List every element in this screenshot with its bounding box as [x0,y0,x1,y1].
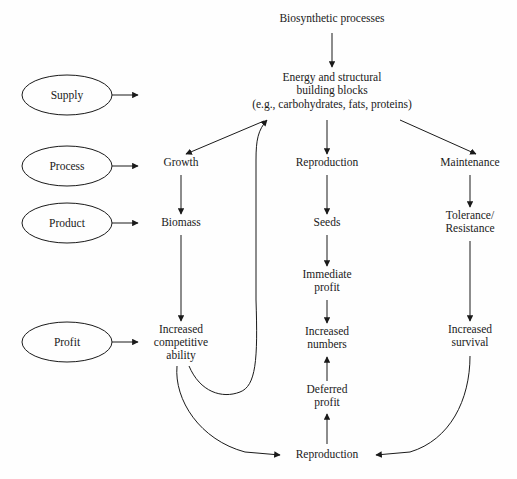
node-immediate-profit-line-1: Immediate [302,268,351,280]
node-energy-building-blocks: Energy and structural building blocks (e… [252,71,412,111]
edge-energy-to-growth [186,121,264,154]
node-deferred-profit-line-2: profit [314,396,340,409]
supply-label: Supply [51,89,84,102]
edge-competitive-ability-to-reproduction-bottom [177,366,280,455]
role-ellipse-supply[interactable]: Supply [22,75,138,115]
role-ellipse-profit[interactable]: Profit [22,322,138,362]
role-ellipse-product[interactable]: Product [22,203,138,243]
flow-diagram-svg: Supply Process Product Profit [0,0,517,479]
node-increased-survival-line-1: Increased [448,323,492,335]
node-increased-numbers: Increased numbers [305,325,349,350]
node-maintenance: Maintenance [440,156,499,168]
node-deferred-profit: Deferred profit [307,383,348,409]
node-increased-numbers-line-2: numbers [307,338,347,350]
node-energy-line-2: building blocks [296,84,368,97]
node-reproduction-top: Reproduction [296,156,359,169]
flow-diagram-canvas: Supply Process Product Profit [0,0,517,479]
node-increased-survival-line-2: survival [451,336,488,348]
node-increased-survival: Increased survival [448,323,492,348]
node-increased-competitive-line-3: ability [166,349,196,362]
node-energy-line-3: (e.g., carbohydrates, fats, proteins) [252,98,412,111]
edge-competitive-ability-feedback-to-energy [189,120,267,395]
node-immediate-profit-line-2: profit [314,281,340,294]
node-increased-numbers-line-1: Increased [305,325,349,337]
node-increased-competitive-line-1: Increased [159,323,203,335]
node-tolerance-resistance: Tolerance/ Resistance [445,209,495,234]
node-increased-competitive-line-2: competitive [154,336,208,349]
node-increased-competitive-ability: Increased competitive ability [154,323,208,362]
node-immediate-profit: Immediate profit [302,268,351,294]
edge-energy-to-maintenance [400,120,476,154]
node-energy-line-1: Energy and structural [283,71,382,84]
product-label: Product [49,217,86,229]
profit-label: Profit [54,336,81,348]
node-growth: Growth [163,156,198,168]
node-biomass: Biomass [161,216,201,228]
node-reproduction-bottom: Reproduction [296,448,359,461]
process-label: Process [49,160,85,172]
node-deferred-profit-line-1: Deferred [307,383,348,395]
node-tolerance-line-2: Resistance [445,222,494,234]
role-ellipse-process[interactable]: Process [22,146,138,186]
node-seeds: Seeds [314,216,341,228]
node-biosynthetic-processes: Biosynthetic processes [279,12,385,25]
node-tolerance-line-1: Tolerance/ [446,209,495,221]
edge-increased-survival-to-reproduction-bottom [376,356,470,455]
